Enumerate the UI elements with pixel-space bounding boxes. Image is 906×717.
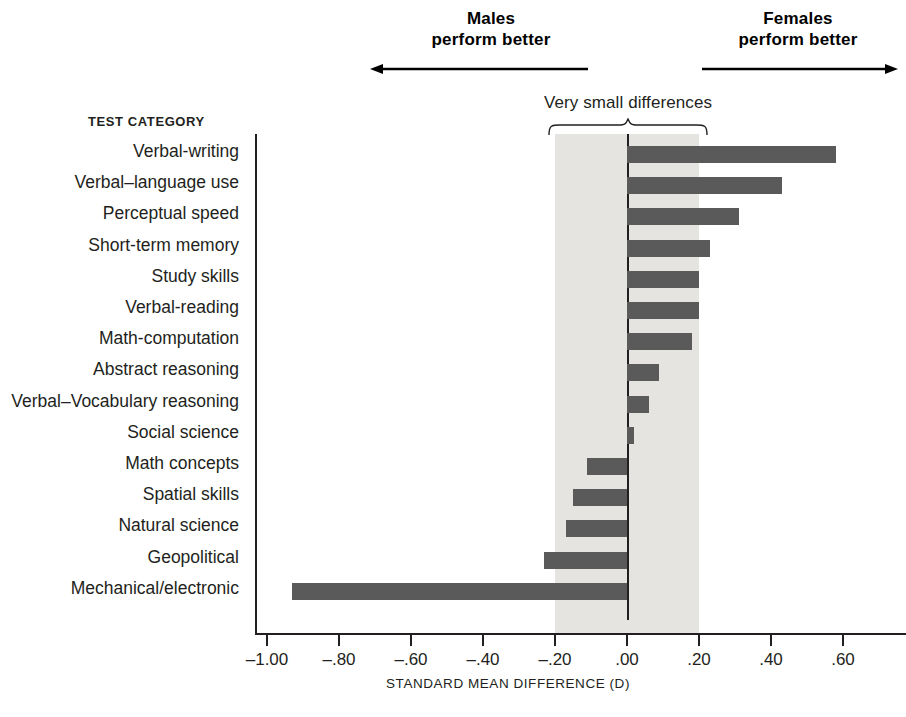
x-tick-mark <box>626 635 628 646</box>
x-tick-label: –1.00 <box>246 650 289 670</box>
category-label: Verbal–Vocabulary reasoning <box>0 391 247 412</box>
right-arrow-icon <box>702 62 898 76</box>
females-label-line1: Females <box>690 8 906 29</box>
category-label: Social science <box>0 422 247 443</box>
category-label: Perceptual speed <box>0 203 247 224</box>
x-axis-line <box>255 633 906 635</box>
category-label: Verbal-writing <box>0 141 247 162</box>
bar <box>627 240 710 257</box>
bar <box>627 333 692 350</box>
category-label: Math concepts <box>0 453 247 474</box>
category-label: Spatial skills <box>0 484 247 505</box>
x-tick-label: –.60 <box>394 650 427 670</box>
bar <box>292 583 627 600</box>
females-direction-annotation: Females perform better <box>690 8 906 50</box>
bar <box>573 489 627 506</box>
category-label: Verbal–language use <box>0 172 247 193</box>
x-tick-label: .60 <box>831 650 855 670</box>
category-label: Study skills <box>0 266 247 287</box>
category-label: Math-computation <box>0 328 247 349</box>
x-tick-label: –.40 <box>466 650 499 670</box>
bar <box>627 146 836 163</box>
x-tick-mark <box>266 635 268 646</box>
category-label: Mechanical/electronic <box>0 578 247 599</box>
bar <box>566 520 627 537</box>
x-tick-mark <box>554 635 556 646</box>
very-small-differences-label: Very small differences <box>498 93 758 113</box>
bar <box>627 364 659 381</box>
x-tick-mark <box>842 635 844 646</box>
left-arrow-icon <box>370 62 588 76</box>
bar <box>627 427 634 444</box>
x-tick-mark <box>338 635 340 646</box>
x-axis-title-text: STANDARD MEAN DIFFERENCE (D) <box>386 676 630 691</box>
x-tick-label: .00 <box>615 650 639 670</box>
category-label: Verbal-reading <box>0 297 247 318</box>
x-tick-mark <box>410 635 412 646</box>
category-label: Abstract reasoning <box>0 359 247 380</box>
x-axis-title: STANDARD MEAN DIFFERENCE (D) <box>0 676 906 691</box>
y-axis-line <box>255 134 257 635</box>
category-label: Short-term memory <box>0 235 247 256</box>
bar <box>544 552 627 569</box>
x-tick-label: –.20 <box>538 650 571 670</box>
bar <box>627 302 699 319</box>
x-tick-mark <box>698 635 700 646</box>
bar <box>627 271 699 288</box>
plot-area <box>255 134 906 635</box>
bar <box>627 208 739 225</box>
category-label: Geopolitical <box>0 547 247 568</box>
x-tick-label: .20 <box>687 650 711 670</box>
x-tick-mark <box>770 635 772 646</box>
males-label-line2: perform better <box>360 29 622 50</box>
males-label-line1: Males <box>360 8 622 29</box>
bar <box>627 177 782 194</box>
males-direction-annotation: Males perform better <box>360 8 622 50</box>
bar <box>627 396 649 413</box>
test-category-header: TEST CATEGORY <box>88 114 205 129</box>
bar <box>587 458 627 475</box>
x-tick-label: –.80 <box>322 650 355 670</box>
females-label-line2: perform better <box>690 29 906 50</box>
x-tick-mark <box>482 635 484 646</box>
category-label: Natural science <box>0 515 247 536</box>
chart-figure: Males perform better Females perform bet… <box>0 0 906 717</box>
x-tick-label: .40 <box>759 650 783 670</box>
